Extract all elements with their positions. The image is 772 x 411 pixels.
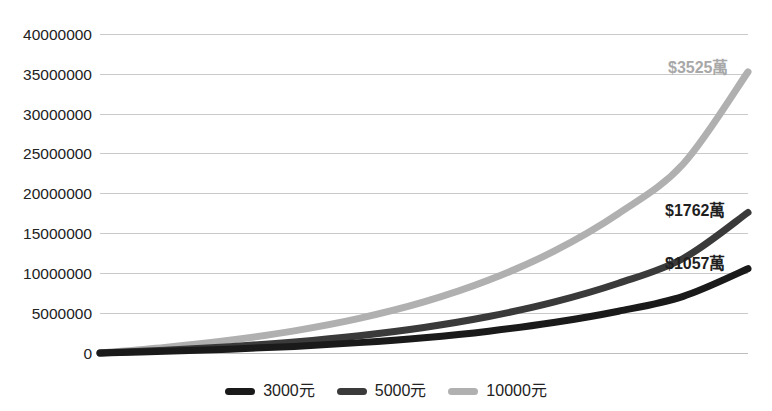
y-tick-label: 40000000 [0, 27, 92, 43]
y-tick-label: 15000000 [0, 226, 92, 242]
series-line-10000 [100, 72, 748, 353]
legend-swatch-icon [225, 388, 255, 395]
y-tick-label: 30000000 [0, 107, 92, 123]
legend-label: 3000元 [263, 383, 315, 399]
legend-label: 5000元 [375, 383, 427, 399]
series-line-5000 [100, 212, 748, 353]
legend-item-5000[interactable]: 5000元 [337, 383, 427, 399]
data-label-10000: $3525萬 [668, 60, 729, 76]
legend-item-10000[interactable]: 10000元 [448, 383, 547, 399]
chart-title [0, 0, 772, 2]
y-tick-label: 25000000 [0, 146, 92, 162]
series-lines [100, 34, 748, 353]
series-line-3000 [100, 269, 748, 353]
legend-item-3000[interactable]: 3000元 [225, 383, 315, 399]
y-tick-label: 35000000 [0, 67, 92, 83]
y-axis: 40000000 35000000 30000000 25000000 2000… [0, 0, 92, 411]
legend-swatch-icon [337, 388, 367, 395]
y-tick-label: 5000000 [0, 306, 92, 322]
y-tick-label: 10000000 [0, 266, 92, 282]
y-tick-label: 0 [0, 346, 92, 362]
legend-swatch-icon [448, 388, 478, 395]
data-label-3000: $1057萬 [665, 256, 726, 272]
plot-area [100, 34, 748, 353]
y-tick-label: 20000000 [0, 186, 92, 202]
legend: 3000元 5000元 10000元 [0, 383, 772, 399]
legend-label: 10000元 [486, 383, 547, 399]
compound-growth-line-chart: 40000000 35000000 30000000 25000000 2000… [0, 0, 772, 411]
data-label-5000: $1762萬 [665, 203, 726, 219]
